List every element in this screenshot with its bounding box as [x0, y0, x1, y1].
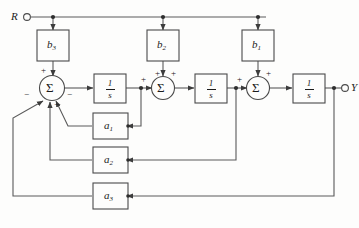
summer-1-symbol: Σ	[46, 80, 54, 96]
summer-3-sign-left: +	[237, 74, 242, 84]
gain-label-a1: a1	[104, 119, 113, 133]
node-a3-in	[126, 194, 130, 198]
wire-tap-a1	[127, 88, 141, 126]
node-a2-in	[126, 158, 130, 162]
summer-2-sign-top-right: +	[171, 68, 176, 78]
gain-label-b2: b2	[157, 38, 166, 52]
integrator-label-2: 1 s	[205, 79, 217, 100]
summer-3-symbol: Σ	[252, 80, 260, 96]
terminal-circle-y	[342, 85, 349, 92]
summer-2-sign-left: +	[141, 74, 146, 84]
terminal-circle-r	[24, 14, 31, 21]
block-diagram-canvas: R Y b3 b2 b1 a1 a2 a3 1 s 1 s 1 s Σ Σ Σ …	[0, 0, 359, 228]
node-tap-a2	[234, 86, 238, 90]
node-r-b1	[256, 15, 260, 19]
summer-1-sign-left: −	[24, 89, 29, 99]
summer-1-sign-bottom: −	[54, 99, 59, 109]
node-tap-a1	[139, 86, 143, 90]
node-a1-in	[126, 124, 130, 128]
gain-label-a3: a3	[104, 189, 113, 203]
summer-1-sign-top: +	[41, 65, 46, 75]
input-label-r: R	[11, 10, 18, 22]
summer-2-sign-top-left: +	[155, 68, 160, 78]
gain-label-b3: b3	[47, 38, 56, 52]
integrator-label-1: 1 s	[104, 79, 116, 100]
node-r-b2	[161, 15, 165, 19]
summer-1-sign-right: −	[67, 89, 72, 99]
wire-a1-to-sum1	[56, 101, 92, 126]
gain-label-a2: a2	[104, 153, 113, 167]
integrator-label-3: 1 s	[303, 79, 315, 100]
summer-3-sign-top-right: +	[266, 68, 271, 78]
summer-2-symbol: Σ	[157, 80, 165, 96]
node-tap-a3	[332, 86, 336, 90]
output-label-y: Y	[351, 81, 357, 93]
wire-a2-to-sum1	[50, 102, 92, 160]
wire-a3-to-sum1	[13, 101, 92, 196]
wire-tap-a3	[127, 88, 334, 196]
diagram-wires	[0, 0, 359, 228]
gain-label-b1: b1	[252, 38, 261, 52]
node-r-b3	[51, 15, 55, 19]
